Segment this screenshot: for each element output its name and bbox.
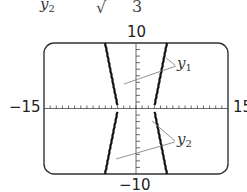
y1-sub: 1 <box>185 62 191 73</box>
y2-sub: 2 <box>185 138 191 149</box>
y1-right-branch <box>154 43 166 105</box>
series-label-y2: y2 <box>177 130 192 149</box>
y1-left-branch <box>105 43 117 105</box>
series-label-y1: y1 <box>177 54 192 73</box>
graph-window <box>0 0 247 192</box>
y2-left-branch <box>105 112 117 174</box>
y2-right-branch <box>154 112 166 174</box>
